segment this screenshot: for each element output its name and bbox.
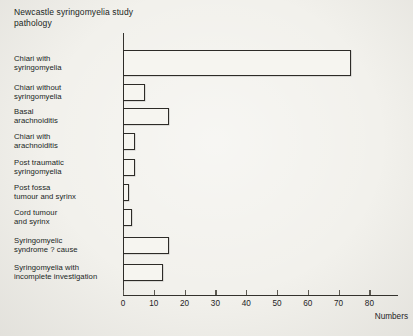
- tick-label: 60: [298, 299, 318, 308]
- bar-chart: Numbers Chiari withsyringomyeliaChiari w…: [0, 0, 413, 336]
- category-label-line: tumour and syrinx: [14, 192, 122, 201]
- category-label: Syringomyelicsyndrome ? cause: [14, 236, 122, 255]
- bar: [123, 133, 135, 150]
- category-label-line: syndrome ? cause: [14, 245, 122, 254]
- category-label: Syringomyelia withincomplete investigati…: [14, 263, 122, 282]
- category-label-line: incomplete investigation: [14, 272, 122, 281]
- category-label-line: Post fossa: [14, 183, 122, 192]
- tick-label: 30: [205, 299, 225, 308]
- category-label-line: and syrinx: [14, 217, 122, 226]
- bar: [123, 264, 163, 281]
- x-axis-title: Numbers: [348, 312, 408, 321]
- tick-mark: [185, 290, 186, 295]
- bar: [123, 209, 132, 226]
- tick-label: 10: [144, 299, 164, 308]
- tick-label: 80: [359, 299, 379, 308]
- category-label-line: Syringomyelic: [14, 236, 122, 245]
- tick-mark: [369, 290, 370, 295]
- bar: [123, 184, 129, 201]
- category-label: Post fossatumour and syrinx: [14, 183, 122, 202]
- tick-mark: [154, 290, 155, 295]
- category-label-line: Chiari with: [14, 132, 122, 141]
- category-label-line: arachnoiditis: [14, 141, 122, 150]
- tick-mark: [123, 290, 124, 295]
- category-label-line: arachnoiditis: [14, 116, 122, 125]
- scanned-chart-page: Newcastle syringomyelia study pathology …: [0, 0, 413, 336]
- category-label-line: Syringomyelia with: [14, 263, 122, 272]
- tick-mark: [246, 290, 247, 295]
- category-label: Basalarachnoiditis: [14, 107, 122, 126]
- category-label: Chiari withoutsyringomyelia: [14, 83, 122, 102]
- bar: [123, 159, 135, 176]
- tick-mark: [308, 290, 309, 295]
- category-label: Cord tumourand syrinx: [14, 208, 122, 227]
- tick-mark: [215, 290, 216, 295]
- x-axis-line: [123, 295, 398, 296]
- category-label-line: syringomyelia: [14, 92, 122, 101]
- category-label-line: Chiari with: [14, 54, 122, 63]
- category-label-line: Post traumatic: [14, 158, 122, 167]
- category-label-line: syringomyelia: [14, 63, 122, 72]
- tick-mark: [277, 290, 278, 295]
- category-label: Chiari witharachnoiditis: [14, 132, 122, 151]
- category-label: Chiari withsyringomyelia: [14, 54, 122, 73]
- category-label: Post traumaticsyringomyelia: [14, 158, 122, 177]
- bar: [123, 237, 169, 254]
- category-label-line: Chiari without: [14, 83, 122, 92]
- bar: [123, 50, 351, 76]
- tick-mark: [339, 290, 340, 295]
- category-label-line: Basal: [14, 107, 122, 116]
- tick-label: 0: [113, 299, 133, 308]
- tick-label: 50: [267, 299, 287, 308]
- bar: [123, 108, 169, 125]
- tick-label: 40: [236, 299, 256, 308]
- category-label-line: syringomyelia: [14, 167, 122, 176]
- bar: [123, 84, 145, 101]
- tick-label: 70: [329, 299, 349, 308]
- tick-label: 20: [175, 299, 195, 308]
- category-label-line: Cord tumour: [14, 208, 122, 217]
